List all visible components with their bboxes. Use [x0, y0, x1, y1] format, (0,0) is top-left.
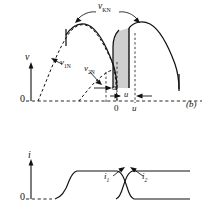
label-alpha: α: [112, 83, 116, 92]
vkn-leader-left: [77, 12, 96, 20]
figure-caption-label: (b): [186, 100, 197, 109]
voltage-origin-label: 0: [20, 94, 25, 104]
label-i2: i2: [142, 172, 147, 183]
vkn-arrow-left-icon: [75, 18, 82, 24]
voltage-y-axis-arrow-icon: [29, 62, 34, 69]
curve-i2: [116, 171, 190, 199]
curve-i1: [55, 171, 190, 199]
vkn-leader-right: [119, 12, 138, 20]
curve-vkn-hump-1: [66, 24, 117, 89]
label-v1n: v1N: [60, 58, 71, 69]
label-u-span: u: [124, 90, 128, 99]
label-i1: i1: [104, 172, 109, 183]
u-arrow-left-icon: [115, 94, 122, 99]
label-i1-sub: 1: [107, 177, 110, 183]
label-vkn-sub: KN: [102, 7, 111, 13]
xtick-u: u: [132, 104, 137, 113]
label-v2n: v2N: [84, 64, 95, 75]
curve-v1n: [38, 25, 117, 101]
label-i2-sub: 2: [145, 177, 148, 183]
label-vkn: vKN: [98, 2, 111, 14]
current-y-axis-label: i: [28, 150, 31, 160]
current-origin-label: 0: [20, 192, 25, 202]
u-arrow-right-icon: [136, 94, 143, 99]
xtick-zero: 0: [114, 104, 119, 113]
v1n-arrow-icon: [51, 58, 58, 63]
label-v2n-sub: 2N: [88, 69, 95, 75]
label-v1n-sub: 1N: [64, 63, 71, 69]
voltage-y-axis-label: v: [25, 52, 29, 62]
curve-vkn-hump-2: [129, 22, 179, 89]
